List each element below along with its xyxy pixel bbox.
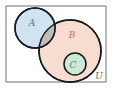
venn-diagram-figure: A B C U bbox=[0, 0, 113, 92]
universal-set-label: U bbox=[95, 71, 103, 81]
set-b-label: B bbox=[68, 30, 76, 40]
set-c-label: C bbox=[70, 60, 77, 70]
set-a-label: A bbox=[28, 18, 36, 28]
venn-diagram-canvas: A B C U bbox=[0, 0, 113, 92]
